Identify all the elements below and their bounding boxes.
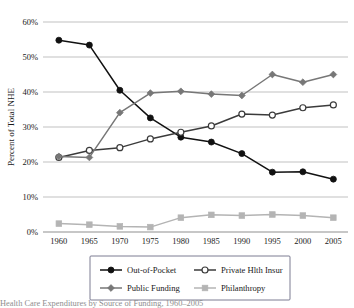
x-tick-label: 2000 xyxy=(294,236,311,246)
series-line-private-hlth-insur xyxy=(59,105,334,158)
legend-public-funding-marker xyxy=(108,285,115,292)
series-line-philanthropy xyxy=(59,215,334,228)
series-point-philanthropy-marker xyxy=(178,215,184,221)
series-point-out-of-pocket-marker xyxy=(239,151,245,157)
x-tick-label: 1960 xyxy=(50,236,67,246)
series-point-private-hlth-insur-marker xyxy=(147,136,153,142)
series-line-public-funding xyxy=(59,75,334,158)
series-point-public-funding-marker xyxy=(330,71,337,78)
legend-label-private-hlth-insur: Private Hlth Insur xyxy=(221,265,283,275)
series-point-philanthropy-marker xyxy=(117,224,123,230)
x-tick-label: 1985 xyxy=(203,236,220,246)
series-point-private-hlth-insur-marker xyxy=(239,111,245,117)
series-point-private-hlth-insur-marker xyxy=(117,145,123,151)
y-tick-label: 60% xyxy=(22,17,38,27)
legend-out-of-pocket-marker xyxy=(108,267,114,273)
series-point-philanthropy-marker xyxy=(148,224,154,230)
y-tick-label: 20% xyxy=(22,157,38,167)
series-point-out-of-pocket-marker xyxy=(208,139,214,145)
series-point-philanthropy-marker xyxy=(87,222,93,228)
series-point-out-of-pocket-marker xyxy=(147,115,153,121)
legend-philanthropy-marker xyxy=(202,285,208,291)
series-point-out-of-pocket-marker xyxy=(56,37,62,43)
legend-box xyxy=(90,256,290,300)
legend-label-out-of-pocket: Out-of-Pocket xyxy=(127,265,177,275)
series-point-philanthropy-marker xyxy=(331,215,337,221)
x-tick-label: 1970 xyxy=(111,236,128,246)
series-point-public-funding-marker xyxy=(299,79,306,86)
legend-label-public-funding: Public Funding xyxy=(127,283,180,293)
series-point-private-hlth-insur-marker xyxy=(269,112,275,118)
series-point-private-hlth-insur-marker xyxy=(86,147,92,153)
y-tick-label: 30% xyxy=(22,122,38,132)
series-point-philanthropy-marker xyxy=(300,213,306,219)
series-point-out-of-pocket-marker xyxy=(330,176,336,182)
legend-label-philanthropy: Philanthropy xyxy=(221,283,266,293)
series-point-out-of-pocket-marker xyxy=(117,87,123,93)
series-point-philanthropy-marker xyxy=(239,213,245,219)
series-point-public-funding-marker xyxy=(177,88,184,95)
x-tick-label: 1995 xyxy=(264,236,281,246)
series-point-out-of-pocket-marker xyxy=(86,42,92,48)
series-point-out-of-pocket-marker xyxy=(300,169,306,175)
x-tick-label: 1980 xyxy=(172,236,189,246)
series-point-out-of-pocket-marker xyxy=(269,169,275,175)
x-tick-label: 1990 xyxy=(233,236,250,246)
legend-private-hlth-insur-marker xyxy=(202,267,208,273)
figure-caption: Health Care Expenditures by Source of Fu… xyxy=(0,299,354,308)
x-tick-label: 2005 xyxy=(325,236,342,246)
y-axis-title: Percent of Total NHE xyxy=(6,88,16,166)
y-tick-label: 10% xyxy=(22,192,38,202)
x-tick-label: 1975 xyxy=(142,236,159,246)
series-point-private-hlth-insur-marker xyxy=(208,123,214,129)
y-tick-label: 40% xyxy=(22,87,38,97)
series-point-philanthropy-marker xyxy=(270,212,276,218)
series-point-private-hlth-insur-marker xyxy=(178,129,184,135)
series-point-private-hlth-insur-marker xyxy=(330,102,336,108)
x-tick-label: 1965 xyxy=(81,236,98,246)
series-point-philanthropy-marker xyxy=(56,221,62,227)
y-tick-label: 0% xyxy=(27,227,38,237)
series-point-private-hlth-insur-marker xyxy=(300,105,306,111)
y-tick-label: 50% xyxy=(22,52,38,62)
series-point-philanthropy-marker xyxy=(209,212,215,218)
